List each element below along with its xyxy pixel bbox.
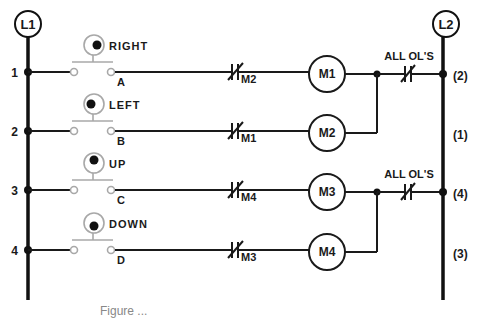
coil-label: M4 [319, 245, 336, 259]
overload-contact-2: ALL OL'S [374, 168, 448, 252]
rung-number: 1 [11, 66, 18, 80]
pushbutton-contact-left [71, 187, 78, 194]
coil-label: M3 [319, 185, 336, 199]
rail-l1-label: L1 [20, 17, 35, 32]
overload-contact-1: ALL OL'S [374, 50, 448, 133]
nc-contact-m3: M3 [228, 241, 256, 263]
overload-label: ALL OL'S [384, 50, 433, 62]
figure-caption: Figure ... [100, 304, 147, 318]
rung-3: 3UPCM4M3(4) [11, 153, 467, 210]
pushbutton-contact-right [108, 247, 115, 254]
pushbutton-right: RIGHTA [71, 35, 149, 88]
coil-label: M1 [319, 67, 336, 81]
pushbutton-left: LEFTB [71, 94, 141, 147]
nc-contact-label: M2 [241, 73, 256, 85]
junction-dot [439, 188, 447, 196]
nc-contact-label: M4 [241, 191, 257, 203]
coil-m1: M1 [309, 56, 345, 92]
pushbutton-up: UPC [71, 153, 127, 206]
nc-contact-m1: M1 [228, 122, 256, 144]
pushbutton-terminal: B [117, 135, 125, 147]
pushbutton-label: LEFT [109, 99, 141, 111]
rail-l2-label: L2 [438, 17, 453, 32]
nc-contact-m4: M4 [228, 181, 257, 203]
overload-label: ALL OL'S [384, 168, 433, 180]
rung-number: 3 [11, 184, 18, 198]
rail-l1: L1 [15, 11, 41, 300]
pushbutton-contact-left [71, 69, 78, 76]
nc-contact-label: M1 [241, 132, 256, 144]
coil-m2: M2 [309, 115, 345, 151]
coil-m3: M3 [309, 174, 345, 210]
pushbutton-terminal: D [117, 254, 125, 266]
rung-number: 4 [11, 244, 18, 258]
pushbutton-contact-left [71, 128, 78, 135]
pushbutton-contact-right [108, 69, 115, 76]
pushbutton-contact-left [71, 247, 78, 254]
pushbutton-terminal: C [117, 194, 125, 206]
rung-4: 4DOWNDM3M4(3) [11, 213, 467, 270]
rung-number: 2 [11, 125, 18, 139]
pushbutton-indicator-dot [90, 222, 99, 231]
wire-number: (2) [453, 69, 468, 83]
wire-number: (3) [453, 247, 468, 261]
coil-label: M2 [319, 126, 336, 140]
junction-dot [439, 70, 447, 78]
pushbutton-label: RIGHT [109, 40, 148, 52]
pushbutton-indicator-dot [93, 41, 102, 50]
nc-contact-m2: M2 [228, 63, 256, 85]
nc-contact-label: M3 [241, 251, 256, 263]
pushbutton-contact-right [108, 128, 115, 135]
pushbutton-indicator-dot [87, 100, 96, 109]
rung-1: 1RIGHTAM2M1(2) [11, 35, 467, 92]
pushbutton-label: DOWN [109, 218, 148, 230]
pushbutton-label: UP [109, 158, 126, 170]
pushbutton-indicator-dot [90, 156, 99, 165]
pushbutton-down: DOWND [71, 213, 148, 266]
pushbutton-contact-right [108, 187, 115, 194]
wire-number: (4) [453, 187, 468, 201]
pushbutton-terminal: A [117, 76, 125, 88]
rung-2: 2LEFTBM1M2(1) [11, 94, 467, 151]
wire-number: (1) [453, 128, 468, 142]
coil-m4: M4 [309, 234, 345, 270]
